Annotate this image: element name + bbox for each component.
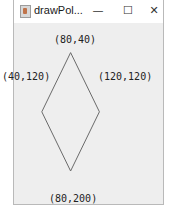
- drawing-canvas: (80,40) (120,120) (80,200) (40,120): [14, 23, 163, 204]
- vertex-label-left: (40,120): [2, 71, 50, 82]
- title-bar[interactable]: drawPol... — ☐ ✕: [14, 0, 163, 23]
- vertex-label-top: (80,40): [54, 34, 96, 45]
- app-window: drawPol... — ☐ ✕ (80,40) (120,120) (80,2…: [13, 0, 164, 205]
- java-app-icon[interactable]: [20, 5, 31, 18]
- minimize-button[interactable]: —: [86, 3, 110, 19]
- vertex-label-right: (120,120): [98, 71, 152, 82]
- vertex-label-bottom: (80,200): [49, 193, 97, 204]
- close-button[interactable]: ✕: [142, 3, 166, 19]
- maximize-button[interactable]: ☐: [116, 3, 140, 19]
- polygon-drawing: [14, 23, 163, 204]
- window-title: drawPol...: [34, 4, 83, 16]
- diamond-polygon: [42, 53, 100, 171]
